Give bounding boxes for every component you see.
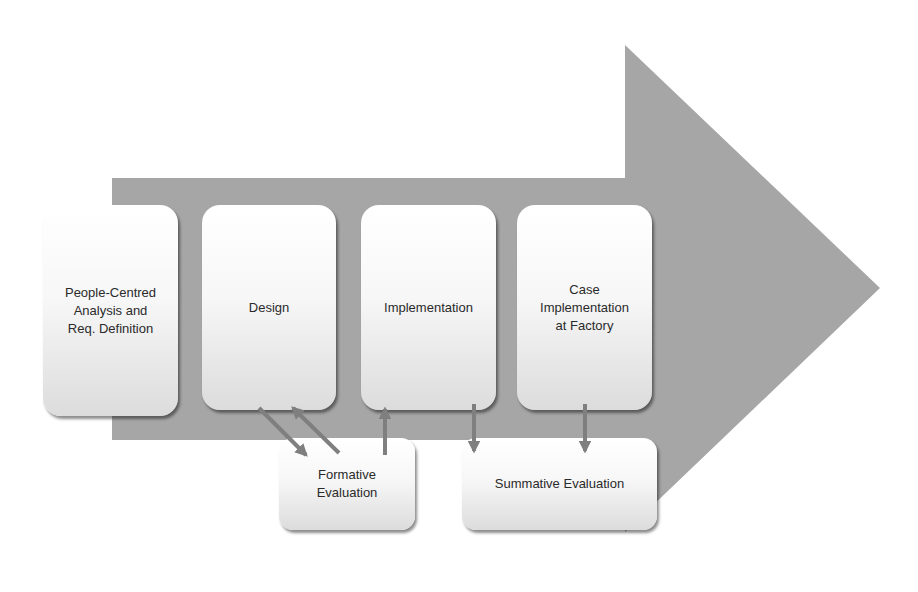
connectors-layer xyxy=(0,0,918,592)
